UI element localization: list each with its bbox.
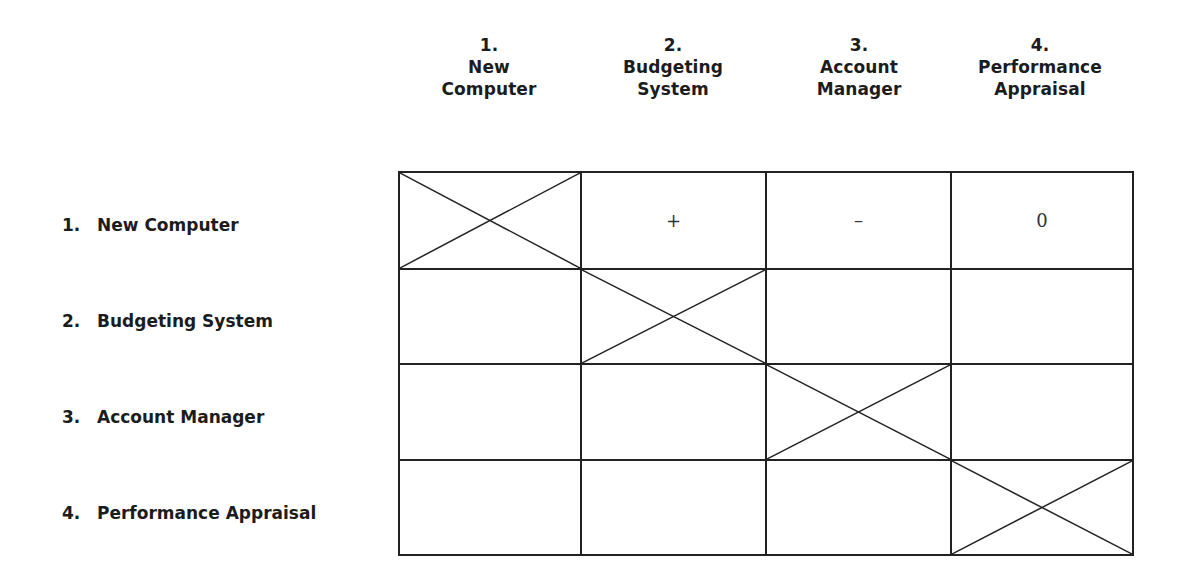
column-header-budgeting-system: 2. Budgeting System bbox=[581, 34, 765, 100]
column-number: 3. bbox=[767, 34, 951, 56]
matrix-cell-diagonal bbox=[400, 173, 582, 270]
row-label-new-computer: 1.New Computer bbox=[62, 214, 239, 236]
row-title: New Computer bbox=[97, 215, 239, 235]
cross-out-icon bbox=[952, 461, 1132, 554]
row-number: 4. bbox=[62, 502, 97, 524]
row-title: Budgeting System bbox=[97, 311, 273, 331]
column-title-line1: Account bbox=[767, 56, 951, 78]
matrix-cell-diagonal bbox=[767, 365, 952, 461]
matrix-cell-empty bbox=[767, 461, 952, 554]
matrix-cell-neutral: 0 bbox=[952, 173, 1132, 270]
matrix-cell-empty bbox=[400, 461, 582, 554]
cross-out-icon bbox=[400, 173, 580, 268]
column-number: 1. bbox=[397, 34, 581, 56]
column-header-new-computer: 1. New Computer bbox=[397, 34, 581, 100]
cross-out-icon bbox=[767, 365, 950, 459]
column-title-line2: System bbox=[581, 78, 765, 100]
column-title-line1: Budgeting bbox=[581, 56, 765, 78]
interaction-matrix: + – 0 bbox=[398, 171, 1134, 556]
matrix-cell-empty bbox=[400, 270, 582, 365]
row-number: 1. bbox=[62, 214, 97, 236]
column-title-line1: New bbox=[397, 56, 581, 78]
row-label-account-manager: 3.Account Manager bbox=[62, 406, 264, 428]
matrix-cell-empty bbox=[582, 461, 767, 554]
column-title-line2: Computer bbox=[397, 78, 581, 100]
matrix-cell-diagonal bbox=[952, 461, 1132, 554]
column-title-line1: Performance bbox=[948, 56, 1132, 78]
row-number: 2. bbox=[62, 310, 97, 332]
column-title-line2: Manager bbox=[767, 78, 951, 100]
matrix-cell-empty bbox=[400, 365, 582, 461]
column-title-line2: Appraisal bbox=[948, 78, 1132, 100]
row-title: Performance Appraisal bbox=[97, 503, 316, 523]
row-number: 3. bbox=[62, 406, 97, 428]
matrix-cell-negative: – bbox=[767, 173, 952, 270]
matrix-cell-empty bbox=[767, 270, 952, 365]
column-header-performance-appraisal: 4. Performance Appraisal bbox=[948, 34, 1132, 100]
row-label-budgeting-system: 2.Budgeting System bbox=[62, 310, 273, 332]
column-number: 2. bbox=[581, 34, 765, 56]
matrix-cell-empty bbox=[952, 270, 1132, 365]
row-title: Account Manager bbox=[97, 407, 264, 427]
matrix-cell-empty bbox=[952, 365, 1132, 461]
matrix-cell-diagonal bbox=[582, 270, 767, 365]
row-label-performance-appraisal: 4.Performance Appraisal bbox=[62, 502, 316, 524]
column-number: 4. bbox=[948, 34, 1132, 56]
column-header-account-manager: 3. Account Manager bbox=[767, 34, 951, 100]
matrix-cell-positive: + bbox=[582, 173, 767, 270]
cross-out-icon bbox=[582, 270, 765, 363]
matrix-cell-empty bbox=[582, 365, 767, 461]
